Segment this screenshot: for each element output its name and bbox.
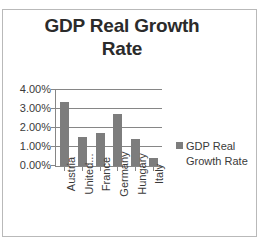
y-axis-tick-label-1: 1.00% — [5, 141, 51, 152]
chart-legend: GDP Real Growth Rate — [176, 139, 254, 169]
y-axis-tick-label-0: 0.00% — [5, 160, 51, 171]
y-axis-tick-1 — [51, 146, 55, 147]
y-axis-tick-label-4: 4.00% — [5, 84, 51, 95]
chart-title-line-2: Rate — [12, 37, 232, 60]
chart-container: GDP Real Growth Rate 4.00% 3.00% 2.00% 1… — [0, 0, 269, 243]
legend-label-line-1: GDP Real — [186, 139, 248, 154]
x-axis-label-italy: Italy — [153, 164, 165, 184]
x-axis-labels: Austria United... France Germany Hungary… — [56, 172, 162, 232]
y-axis-tick-3 — [51, 108, 55, 109]
legend-swatch-icon — [176, 142, 183, 149]
chart-title-line-1: GDP Real Growth — [12, 14, 232, 37]
y-axis-tick-label-2: 2.00% — [5, 122, 51, 133]
bar-slot-austria — [56, 89, 74, 166]
y-axis-tick-4 — [51, 89, 55, 90]
y-axis-tick-2 — [51, 127, 55, 128]
chart-title: GDP Real Growth Rate — [12, 14, 232, 60]
legend-entry-label: GDP Real Growth Rate — [186, 139, 248, 169]
legend-label-line-2: Growth Rate — [186, 154, 248, 169]
y-axis-tick-label-3: 3.00% — [5, 103, 51, 114]
y-axis-labels: 4.00% 3.00% 2.00% 1.00% 0.00% — [3, 89, 51, 166]
